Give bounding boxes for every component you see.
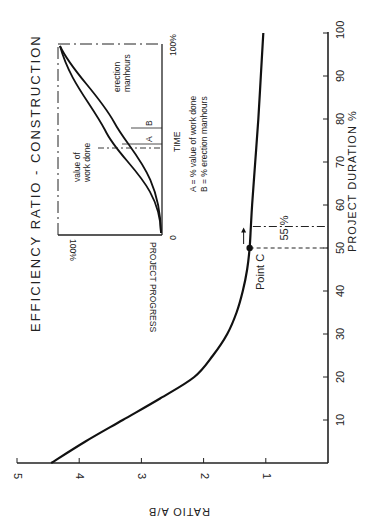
inset-erection-label-1: erection	[112, 61, 122, 92]
x-tick-label: 100	[334, 21, 346, 39]
x-axis-ticks: 102030405060708090100	[323, 21, 346, 426]
x-tick-label: 50	[334, 242, 346, 254]
x-axis-label: PROJECT DURATION %	[346, 110, 358, 252]
inset-erection-label-2: manhours	[122, 54, 132, 92]
y-tick-label: 5	[12, 473, 24, 479]
x-tick-label: 30	[334, 328, 346, 340]
y-tick-label: 4	[74, 473, 86, 479]
pct-55-label: 55 %	[278, 215, 290, 240]
efficiency-ratio-chart: 102030405060708090100 12345 EFFICIENCY R…	[0, 0, 365, 522]
y-tick-label: 1	[261, 473, 273, 479]
inset-origin-label: 0	[168, 235, 178, 240]
x-tick-label: 40	[334, 285, 346, 297]
x-tick-label: 80	[334, 113, 346, 125]
inset-legend-b: B = % erection manhours	[199, 96, 209, 192]
inset-y-100-label: 100%	[68, 239, 78, 261]
inset-value-label-1: value of	[72, 152, 82, 182]
x-tick-label: 60	[334, 199, 346, 211]
inset-time-label: TIME	[172, 131, 182, 152]
y-tick-label: 3	[136, 473, 148, 479]
x-tick-label: 90	[334, 70, 346, 82]
inset-value-label-2: work done	[82, 143, 92, 183]
y-axis-label: RATIO A/B	[148, 506, 210, 518]
inset-x-100-label: 100%	[168, 34, 178, 56]
x-tick-label: 20	[334, 371, 346, 383]
inset-A-label: A	[144, 136, 154, 142]
arrow-head-icon	[241, 228, 246, 233]
x-tick-label: 10	[334, 414, 346, 426]
rotated-chart-stage: 102030405060708090100 12345 EFFICIENCY R…	[0, 0, 365, 522]
inset-chart: A B 0 100% 100% PROJECT PROGRESS TIME va…	[58, 34, 209, 333]
chart-title: EFFICIENCY RATIO - CONSTRUCTION	[28, 34, 43, 332]
axes: 102030405060708090100 12345	[12, 21, 346, 479]
point-c-label: Point C	[254, 254, 266, 290]
y-tick-label: 2	[199, 473, 211, 479]
point-c-marker	[246, 245, 252, 251]
inset-legend-a: A = % value of work done	[188, 96, 198, 192]
x-tick-label: 70	[334, 156, 346, 168]
inset-B-label: B	[144, 120, 154, 126]
y-axis-ticks: 12345	[12, 458, 273, 479]
point-c-annotation: Point C 55 %	[241, 215, 328, 290]
inset-progress-label: PROJECT PROGRESS	[148, 242, 158, 332]
